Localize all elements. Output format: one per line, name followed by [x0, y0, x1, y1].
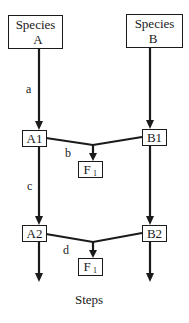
node-f1-bottom-label: F — [83, 259, 90, 274]
edge-b2-continue — [146, 241, 154, 282]
edge-label-a: a — [26, 82, 32, 96]
node-b1: B1 — [143, 130, 167, 146]
arrowhead-icon — [35, 216, 43, 225]
node-f1-top-subscript: 1 — [93, 169, 97, 178]
arrowhead-icon — [146, 273, 154, 282]
arrowhead-icon — [89, 153, 97, 161]
node-b1-label: B1 — [147, 130, 162, 145]
node-species-b-line2: B — [149, 31, 158, 46]
edge-a2-b2-to-f1-bottom — [46, 233, 142, 258]
node-a2-label: A2 — [27, 226, 43, 241]
edge-label-d: d — [63, 243, 69, 257]
node-species-a: Species A — [9, 16, 63, 49]
node-a2: A2 — [23, 226, 47, 242]
node-f1-top-label: F — [83, 162, 90, 177]
edge-a1-to-a2 — [35, 146, 43, 225]
edge-label-b: b — [65, 146, 71, 160]
edge-a2-continue — [35, 241, 43, 282]
node-species-a-line2: A — [33, 32, 43, 47]
arrowhead-icon — [35, 121, 43, 130]
edge-species-a-to-a1 — [35, 48, 43, 130]
arrowhead-icon — [89, 250, 97, 258]
node-species-b: Species B — [127, 15, 183, 48]
node-b2: B2 — [143, 226, 167, 242]
steps-caption: Steps — [75, 292, 103, 307]
edge-a1-b1-to-f1-top — [46, 137, 142, 161]
node-f1-bottom-subscript: 1 — [93, 266, 97, 275]
edge-species-b-to-b1 — [146, 47, 154, 129]
edge-b1-to-b2 — [146, 145, 154, 225]
node-b2-label: B2 — [147, 226, 162, 241]
arrowhead-icon — [146, 120, 154, 129]
hybridization-diagram: a b c d Species A Species B A1 B1 F 1 A2… — [0, 0, 189, 323]
edge-label-c: c — [27, 179, 32, 193]
arrowhead-icon — [146, 216, 154, 225]
node-species-a-line1: Species — [16, 17, 56, 32]
node-a1-label: A1 — [27, 131, 43, 146]
node-f1-bottom: F 1 — [79, 259, 103, 276]
node-f1-top: F 1 — [79, 162, 103, 179]
node-species-b-line1: Species — [135, 16, 175, 31]
node-a1: A1 — [23, 131, 47, 147]
arrowhead-icon — [35, 273, 43, 282]
